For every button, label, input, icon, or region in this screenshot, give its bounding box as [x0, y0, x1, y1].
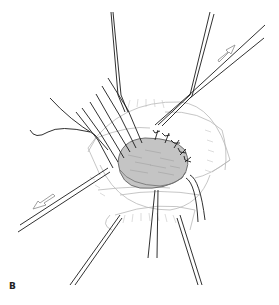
retraction-arrow-lower-left-icon: [33, 194, 55, 209]
graft-tissue: [118, 138, 188, 188]
retraction-arrow-upper-right-icon: [218, 45, 235, 62]
diagram-canvas: [0, 0, 279, 305]
panel-label: B: [9, 281, 16, 291]
